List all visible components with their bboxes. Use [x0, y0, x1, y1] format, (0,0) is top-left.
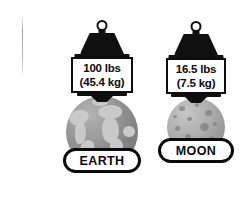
- weight-body: [80, 33, 124, 54]
- moon-name-pill: MOON: [158, 138, 234, 163]
- earth-name-label: EARTH: [79, 154, 124, 168]
- moon-weight-card: 16.5 lbs (7.5 kg): [166, 58, 226, 94]
- moon-weight-kilograms: (7.5 kg): [168, 77, 224, 91]
- plate-foot: [185, 97, 207, 103]
- plate-foot: [91, 96, 113, 102]
- earth-weight-kilograms: (45.4 kg): [73, 76, 131, 90]
- scale-plate-icon: [77, 92, 127, 102]
- scale-plate-icon: [171, 93, 221, 103]
- moon-name-label: MOON: [176, 144, 217, 158]
- weight-ring-icon: [191, 21, 202, 32]
- weight-comparison-diagram: 100 lbs (45.4 kg) EARTH: [0, 0, 243, 207]
- earth-name-pill: EARTH: [63, 148, 141, 173]
- scan-artifact-line: [22, 15, 23, 78]
- earth-weight-pounds: 100 lbs: [73, 62, 131, 76]
- hanging-weight-icon: [75, 20, 130, 58]
- hanging-weight-icon: [169, 21, 224, 59]
- moon-weight-pounds: 16.5 lbs: [168, 63, 224, 77]
- earth-assembly: 100 lbs (45.4 kg) EARTH: [52, 0, 152, 207]
- moon-assembly: 16.5 lbs (7.5 kg) MOON: [146, 0, 243, 207]
- weight-ring-icon: [97, 20, 108, 31]
- earth-weight-card: 100 lbs (45.4 kg): [71, 57, 133, 93]
- weight-body: [174, 34, 218, 55]
